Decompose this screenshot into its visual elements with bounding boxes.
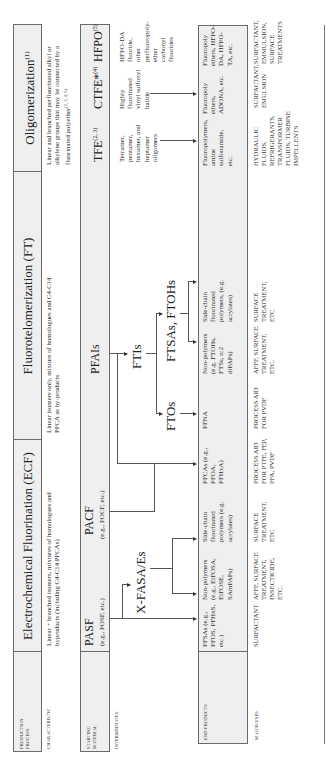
major-use-pfna: Process aid for PVDF	[252, 381, 268, 429]
arrow-icon	[127, 583, 131, 587]
connector	[160, 140, 194, 141]
arrow-icon	[193, 412, 197, 416]
major-use-ft-side-chain-polymers: Surface treatment, etc	[252, 274, 276, 322]
end-product-ft-side-chain-polymers: Side-chain fluorinated polymers, (e.g. a…	[201, 272, 234, 322]
end-product-fluoropolymers: Fluoropolymers, amine sulfonamide, etc.	[201, 120, 234, 166]
row-label-major-uses: Major uses	[254, 711, 260, 740]
connector	[188, 282, 189, 342]
arrow-icon	[193, 617, 197, 621]
divider	[198, 651, 248, 652]
starting-material-pasf-example: (e.g., POSF, etc.)	[98, 598, 106, 646]
characteristic-ft: Linear isomers only, mixture of homologu…	[45, 263, 62, 433]
end-product-ecf-non-polymers: Non-polymers (e.g., EtFOSA, EtFOSE, SAmP…	[201, 548, 234, 600]
end-product-ecf-side-chain-polymers: Side-chain fluorinated polymers (e.g. ac…	[201, 490, 234, 542]
connector	[146, 353, 156, 354]
process-title-ecf: Electrochemical Fluorination (ECF)	[20, 440, 35, 652]
intermediate-tfe-oligomers: Tetramer, pentamer, hexamer, and heptame…	[118, 118, 159, 162]
major-use-ft-non-polymers: AFFF, surface treatment, etc.	[252, 326, 276, 374]
starting-material-pfais: PFAIs	[89, 344, 102, 374]
starting-material-tfe: TFE(2, 3)	[89, 128, 105, 162]
arrow-icon	[193, 537, 197, 541]
row-label-intermediates: Intermediates	[114, 711, 120, 749]
intermediate-hfpo-fluorides: HFPO-DA fluoride, other perfluoropoly-et…	[118, 22, 175, 62]
connector	[117, 354, 118, 464]
connector	[180, 413, 194, 414]
connector	[150, 568, 172, 569]
row-label-characteristic: Characteristic	[46, 708, 52, 749]
connector	[172, 593, 194, 594]
arrow-icon	[124, 352, 128, 356]
connector	[122, 585, 123, 619]
starting-material-hfpo: HFPO(5)	[89, 24, 105, 62]
starting-material-ctfe: CTFE*(4)	[89, 67, 105, 109]
arrow-icon	[193, 280, 197, 284]
intermediate-ctfe-vinyl-sulfonyl-halide: Highly fluorinated vinyl sulfonyl halide	[118, 65, 151, 109]
connector	[154, 464, 155, 512]
major-use-pfsas: Surfactant	[252, 601, 260, 647]
starting-material-pacf: PACF	[83, 506, 96, 535]
connector	[122, 618, 194, 619]
connector	[117, 463, 194, 464]
intermediate-ftos: FTOs	[163, 402, 178, 431]
end-product-ft-non-polymers: Non-polymers (e.g. FTOHs, FTSs, n:2 diPA…	[201, 330, 234, 374]
end-product-pfna: PFNA	[201, 389, 209, 429]
characteristic-oligomerization: Linear and branched perfluorinated alkyl…	[45, 25, 72, 165]
intermediate-ftis: FTIs	[129, 344, 144, 369]
arrow-icon	[193, 340, 197, 344]
connector	[180, 313, 188, 314]
process-title-ft: Fluorotelomerization (FT)	[20, 172, 35, 440]
arrow-icon	[193, 139, 197, 143]
end-product-fluoropolyethers-adona: Fluoropoly ethers, ADONA, etc.	[201, 68, 226, 114]
end-product-fluoropolyethers-hfpo: Fluoropoly ethers, HFPO-DA, HFPO-TA, etc…	[201, 24, 234, 66]
characteristic-ecf: Linear + branched isomers, mixtures of h…	[45, 476, 62, 646]
intermediate-x-fasa-es: X-FASA/Es	[133, 551, 148, 614]
end-product-pfcas: PFCAs (e.g., PFOA, PFHxA)	[201, 444, 226, 484]
starting-material-pasf: PASF	[83, 618, 96, 646]
connector	[172, 538, 194, 539]
major-use-ecf-side-chain-polymers: Surface treatment, etc	[252, 490, 276, 542]
row-label-production-process: Production process	[19, 709, 30, 749]
major-use-ecf-non-polymers: AFFF, surface treatment, insecticide, et…	[252, 548, 284, 600]
row-label-end-products: End products	[203, 700, 209, 740]
major-use-pfcas: Process aid for PTFE, FEP, PFA, PVDF	[252, 436, 276, 484]
table-bottom-border	[324, 25, 325, 744]
row-label-starting-material: Starting material	[86, 709, 97, 749]
divider	[80, 651, 110, 652]
major-use-fluoropolyethers-adona: Surfactant, emulsion	[252, 66, 268, 108]
arrow-icon	[193, 462, 197, 466]
arrow-icon	[193, 592, 197, 596]
connector	[156, 314, 157, 414]
connector	[110, 511, 154, 512]
connector	[172, 539, 173, 594]
major-use-fluoropolymers: Hydraulic fluids, refrigerants, transfor…	[252, 110, 300, 166]
arrow-icon	[193, 92, 197, 96]
pfas-production-diagram: Production process Electrochemical Fluor…	[0, 0, 326, 774]
end-product-pfsas: PFSAs (e.g., PFOS, PFHxS, etc.)	[201, 603, 226, 647]
connector	[110, 618, 122, 619]
major-use-fluoropolyethers-hfpo: Surfactant, emmulsion, surface treatment…	[252, 22, 284, 64]
process-title-oligomerization: Oligomerization(1)	[20, 24, 37, 172]
connector	[150, 93, 194, 94]
intermediate-ftsas-ftohs: FTSAs, FTOHs	[163, 280, 178, 362]
starting-material-pacf-example: (e.g., POCF, etc.)	[98, 490, 106, 539]
